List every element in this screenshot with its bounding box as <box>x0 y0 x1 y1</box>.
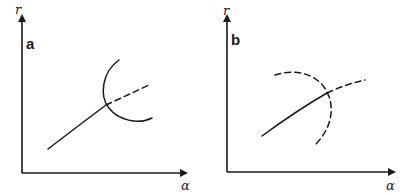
diagram-canvas: r α a r α b <box>0 0 413 195</box>
solid-arc-a <box>103 60 152 121</box>
y-axis-label-a: r <box>15 2 22 17</box>
y-axis-label-b: r <box>223 3 230 18</box>
dashed-arc-b <box>275 72 331 145</box>
panel-a: r α a <box>15 2 190 193</box>
dashed-extension-b <box>327 80 365 93</box>
solid-curve-b <box>262 93 327 136</box>
panel-b: r α b <box>223 3 395 193</box>
solid-curve-a <box>48 105 106 149</box>
x-axis-label-a: α <box>181 178 190 193</box>
panel-label-a: a <box>26 35 35 52</box>
panel-label-b: b <box>231 31 240 48</box>
dashed-extension-a <box>106 85 149 105</box>
x-axis-label-b: α <box>386 178 395 193</box>
